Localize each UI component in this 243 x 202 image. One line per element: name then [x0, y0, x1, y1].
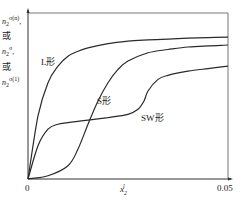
y-axis-label: n2σ(n), 或 n2σ, 或 n2σ(1) — [2, 12, 26, 91]
curve-L形 — [28, 37, 228, 179]
x-axis-arrow-icon — [228, 178, 233, 181]
curve-label-l: L形 — [41, 55, 56, 68]
curve-SW形 — [28, 66, 228, 179]
chart-canvas — [0, 0, 243, 202]
x-axis-label: x2l — [120, 183, 125, 196]
x-tick-0-05: 0.05 — [217, 183, 233, 193]
curve-label-s: S形 — [97, 94, 111, 107]
curve-label-sw: SW形 — [141, 111, 164, 124]
x-tick-0: 0 — [25, 183, 30, 193]
curve-S形 — [28, 45, 228, 179]
y-axis-arrow-icon — [27, 8, 30, 13]
